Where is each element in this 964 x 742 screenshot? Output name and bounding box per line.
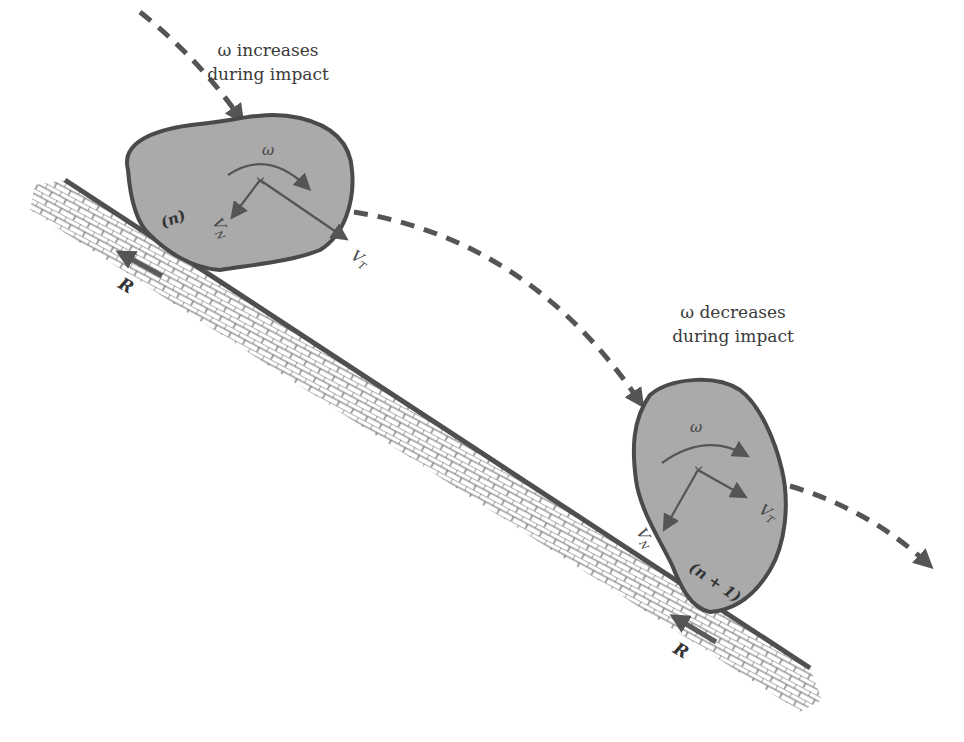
rock-shape <box>127 115 353 270</box>
omega-label: ω <box>690 418 702 436</box>
rock-impact-n: ω × VN VT (n) <box>127 115 373 273</box>
outgoing-trajectory-arrow <box>790 486 928 564</box>
caption-omega-decreases-line1: ω decreases <box>680 302 786 322</box>
caption-omega-decreases-line2: during impact <box>672 326 794 346</box>
caption-omega-increases-line2: during impact <box>207 64 329 84</box>
rockfall-impact-diagram: ω × VN VT (n) R ω increases during impac… <box>0 0 964 742</box>
caption-omega-increases-line1: ω increases <box>217 40 318 60</box>
reaction-label: R <box>669 638 692 663</box>
middle-trajectory-arrow <box>354 212 640 402</box>
omega-label: ω <box>262 141 274 159</box>
vt-label: VT <box>347 246 373 272</box>
